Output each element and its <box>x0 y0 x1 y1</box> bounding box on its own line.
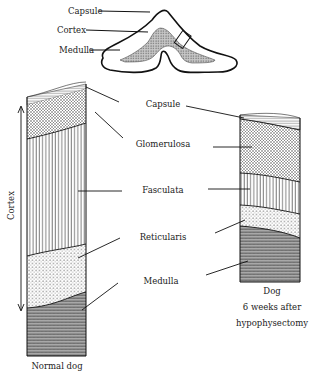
leader-right-capsule <box>186 106 244 118</box>
right-caption-line2: 6 weeks after <box>243 303 301 312</box>
layer-label-reticularis: Reticularis <box>140 233 187 242</box>
leader-inset-capsule <box>99 11 150 12</box>
layer-label-capsule: Capsule <box>146 100 181 109</box>
cortex-double-arrow <box>18 106 24 311</box>
normal-dog-column <box>18 82 123 356</box>
leader-left-glomerulosa <box>95 112 123 138</box>
layer-label-medulla: Medulla <box>143 277 178 286</box>
leader-left-medulla <box>82 283 118 310</box>
right-caption-line1: Dog <box>263 287 280 296</box>
layer-label-glomerulosa: Glomerulosa <box>136 140 191 149</box>
cortex-axis-label: Cortex <box>6 191 16 220</box>
hypophysectomy-column <box>186 106 300 282</box>
inset-label-medulla: Medulla <box>59 46 94 55</box>
right-caption-line3: hypophysectomy <box>236 319 308 328</box>
normal-dog-caption: Normal dog <box>31 362 82 371</box>
left-fasculata-layer <box>27 123 86 256</box>
adrenal-cortex-diagram: Capsule Cortex Medulla Capsule Glomerulo… <box>0 0 315 376</box>
layer-label-fasculata: Fasculata <box>142 186 183 195</box>
leader-left-capsule <box>86 87 119 102</box>
inset-label-cortex: Cortex <box>57 26 86 35</box>
adrenal-gland-inset <box>86 10 237 72</box>
inset-label-capsule: Capsule <box>68 7 103 16</box>
